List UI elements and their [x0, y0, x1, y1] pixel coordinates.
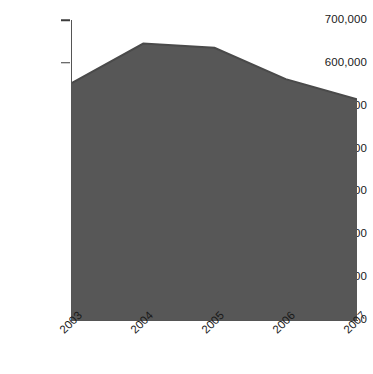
y-tick-mark-700000	[61, 19, 70, 21]
y-axis-line	[71, 20, 72, 321]
area-series-shape	[72, 44, 357, 320]
area-chart: 700,000 600,000 500,000 400,000 300,000 …	[0, 0, 373, 374]
y-tick-mark-600000	[61, 62, 70, 64]
x-tick-label-2003: 2003	[58, 310, 85, 337]
plot-area	[72, 18, 357, 322]
